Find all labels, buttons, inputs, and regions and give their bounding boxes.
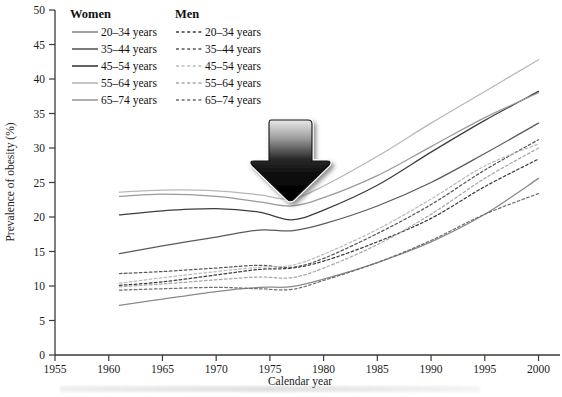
y-tick-label: 0 bbox=[39, 349, 45, 361]
legend-label-women-0: 20–34 years bbox=[101, 26, 157, 39]
series-line-men-5564 bbox=[119, 148, 538, 287]
x-tick-label: 1980 bbox=[312, 363, 335, 375]
legend-label-women-1: 35–44 years bbox=[101, 43, 157, 56]
series-line-women-2034 bbox=[119, 178, 538, 305]
legend-label-women-3: 55–64 years bbox=[101, 77, 157, 90]
x-tick-label: 1965 bbox=[151, 363, 174, 375]
x-tick-label: 1985 bbox=[366, 363, 389, 375]
x-tick-label: 1995 bbox=[473, 363, 496, 375]
x-axis-ticks: 1955196019651970197519801985199019952000 bbox=[44, 355, 551, 375]
y-tick-label: 15 bbox=[34, 246, 46, 258]
legend-label-women-2: 45–54 years bbox=[101, 60, 157, 73]
legend-header-men: Men bbox=[175, 7, 199, 21]
legend-header-women: Women bbox=[70, 7, 111, 21]
y-axis-ticks: 05101520253035404550 bbox=[34, 4, 56, 361]
y-tick-label: 30 bbox=[34, 142, 46, 154]
legend-label-men-4: 65–74 years bbox=[205, 94, 261, 107]
y-tick-label: 35 bbox=[34, 108, 46, 120]
y-tick-label: 50 bbox=[34, 4, 46, 16]
x-tick-label: 1955 bbox=[44, 363, 67, 375]
y-tick-label: 40 bbox=[34, 73, 46, 85]
obesity-prevalence-chart: 05101520253035404550 1955196019651970197… bbox=[0, 0, 562, 397]
series-line-women-6574 bbox=[119, 93, 538, 206]
x-tick-label: 1990 bbox=[420, 363, 443, 375]
y-tick-label: 20 bbox=[34, 211, 46, 223]
legend-label-men-2: 45–54 years bbox=[205, 60, 261, 73]
legend-label-men-1: 35–44 years bbox=[205, 43, 261, 56]
legend-label-men-3: 55–64 years bbox=[205, 77, 261, 90]
x-tick-label: 2000 bbox=[527, 363, 550, 375]
data-series-layer bbox=[119, 60, 538, 306]
y-tick-label: 25 bbox=[34, 177, 46, 189]
series-line-women-3544 bbox=[119, 123, 538, 253]
y-tick-label: 45 bbox=[34, 39, 46, 51]
scan-artifact bbox=[60, 386, 480, 392]
legend-rows: 20–34 years20–34 years35–44 years35–44 y… bbox=[72, 26, 261, 107]
x-tick-label: 1960 bbox=[97, 363, 120, 375]
y-tick-label: 5 bbox=[39, 315, 45, 327]
y-axis-title: Prevalence of obesity (%) bbox=[4, 122, 17, 241]
y-tick-label: 10 bbox=[34, 280, 46, 292]
x-tick-label: 1975 bbox=[258, 363, 281, 375]
series-line-women-4554 bbox=[119, 91, 538, 219]
legend: Women Men 20–34 years20–34 years35–44 ye… bbox=[70, 7, 261, 107]
legend-label-women-4: 65–74 years bbox=[101, 94, 157, 107]
x-tick-label: 1970 bbox=[205, 363, 228, 375]
legend-label-men-0: 20–34 years bbox=[205, 26, 261, 39]
series-line-women-5564 bbox=[119, 60, 538, 200]
